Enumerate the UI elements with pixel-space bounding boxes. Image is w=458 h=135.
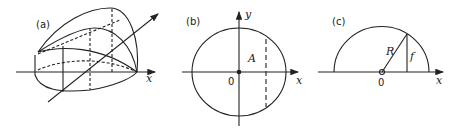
panel-a: (a) x <box>16 8 158 102</box>
region-label: A <box>247 52 256 65</box>
figure: (a) x (b) y x A 0 (c) <box>0 0 458 135</box>
panel-c: (c) R f 0 x <box>318 16 443 88</box>
origin-point <box>237 70 241 74</box>
bottom-curve <box>35 55 137 91</box>
x-label-c: x <box>436 74 443 87</box>
panel-b-label: (b) <box>186 16 200 27</box>
y-label: y <box>244 8 252 21</box>
panel-a-axis-label: x <box>146 72 153 85</box>
semicircle <box>334 27 429 72</box>
height-label: f <box>409 50 416 63</box>
radius-label: R <box>385 45 394 58</box>
origin-label-c: 0 <box>378 77 384 88</box>
front-profile <box>38 49 137 72</box>
panel-a-label: (a) <box>36 19 50 30</box>
origin-label-b: 0 <box>228 76 234 87</box>
x-label-b: x <box>296 74 303 87</box>
panel-c-label: (c) <box>332 16 345 27</box>
panel-b: (b) y x A 0 <box>182 8 303 126</box>
